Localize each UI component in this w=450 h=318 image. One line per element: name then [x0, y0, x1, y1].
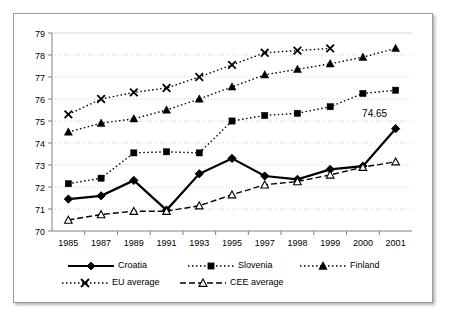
datapoint-cee-average-2001	[392, 158, 400, 165]
xtick-label-1991: 1991	[157, 238, 177, 248]
datapoint-eu-average-1991	[163, 84, 171, 92]
ytick-label-77: 77	[35, 73, 45, 83]
ytick-label-71: 71	[35, 205, 45, 215]
datapoint-slovenia-1995	[229, 118, 235, 124]
datapoint-finland-2000	[359, 53, 367, 60]
datapoint-croatia-1987	[97, 192, 105, 200]
ytick-label-75: 75	[35, 117, 45, 127]
legend-item-cee-average[interactable]: CEE average	[180, 277, 284, 287]
ytick-label-70: 70	[35, 227, 45, 237]
xtick-label-1987: 1987	[91, 238, 111, 248]
datapoint-finland-1991	[163, 106, 171, 113]
datapoint-eu-average-1985	[65, 111, 73, 119]
xtick-label-1998: 1998	[287, 238, 307, 248]
datapoint-slovenia-2000	[360, 90, 366, 96]
series-line-1	[68, 90, 395, 184]
datapoint-cee-average-1993	[195, 202, 203, 209]
xtick-label-1993: 1993	[189, 238, 209, 248]
datapoint-slovenia-1997	[262, 112, 268, 118]
ytick-label-73: 73	[35, 161, 45, 171]
xtick-label-1989: 1989	[124, 238, 144, 248]
datapoint-cee-average-1999	[326, 171, 334, 178]
xtick-label-2000: 2000	[353, 238, 373, 248]
datapoint-croatia-1995	[228, 154, 236, 162]
ytick-label-72: 72	[35, 183, 45, 193]
datapoint-cee-average-1987	[97, 211, 105, 218]
datapoint-croatia-1997	[261, 172, 269, 180]
datapoint-eu-average-1997	[261, 49, 269, 57]
xtick-label-1997: 1997	[255, 238, 275, 248]
datapoint-eu-average-1999	[326, 45, 334, 53]
legend-marker-slovenia	[208, 263, 214, 269]
legend-marker-croatia	[87, 262, 95, 270]
xtick-label-2001: 2001	[386, 238, 406, 248]
line-chart: 7071727374757677787919851987198919911993…	[0, 0, 450, 318]
legend-item-finland[interactable]: Finland	[300, 260, 380, 270]
xtick-label-1999: 1999	[320, 238, 340, 248]
ytick-label-74: 74	[35, 139, 45, 149]
legend-label-cee-average: CEE average	[230, 277, 284, 287]
legend-item-eu-average[interactable]: EU average	[62, 277, 160, 287]
series-croatia	[64, 125, 399, 215]
legend-item-slovenia[interactable]: Slovenia	[188, 260, 273, 270]
datapoint-eu-average-1995	[228, 61, 236, 69]
datapoint-finland-1985	[64, 128, 72, 135]
datapoint-slovenia-2001	[393, 87, 399, 93]
series-eu-average	[65, 45, 334, 119]
datapoint-cee-average-1995	[228, 191, 236, 198]
datapoint-slovenia-1985	[65, 181, 71, 187]
datapoint-slovenia-1993	[196, 150, 202, 156]
legend-label-finland: Finland	[350, 260, 380, 270]
datapoint-finland-1989	[130, 115, 138, 122]
datapoint-finland-1999	[326, 60, 334, 67]
series-line-3	[68, 48, 330, 114]
datapoint-slovenia-1998	[294, 110, 300, 116]
datapoint-finland-2001	[392, 44, 400, 51]
chart-container: 7071727374757677787919851987198919911993…	[0, 0, 450, 318]
datapoint-croatia-1985	[64, 195, 72, 203]
ytick-label-78: 78	[35, 51, 45, 61]
ytick-label-76: 76	[35, 95, 45, 105]
datapoint-slovenia-1989	[131, 150, 137, 156]
legend-label-croatia: Croatia	[118, 260, 147, 270]
xtick-label-1995: 1995	[222, 238, 242, 248]
xtick-label-1985: 1985	[58, 238, 78, 248]
legend-item-croatia[interactable]: Croatia	[68, 260, 147, 270]
ytick-label-79: 79	[35, 29, 45, 39]
datapoint-slovenia-1987	[98, 175, 104, 181]
datapoint-slovenia-1991	[163, 149, 169, 155]
datapoint-finland-1993	[195, 95, 203, 102]
datapoint-annotation-0: 74.65	[362, 108, 387, 119]
datapoint-slovenia-1999	[327, 104, 333, 110]
series-slovenia	[65, 87, 398, 187]
legend-label-slovenia: Slovenia	[238, 260, 273, 270]
datapoint-finland-1997	[261, 71, 269, 78]
legend-label-eu-average: EU average	[112, 277, 160, 287]
